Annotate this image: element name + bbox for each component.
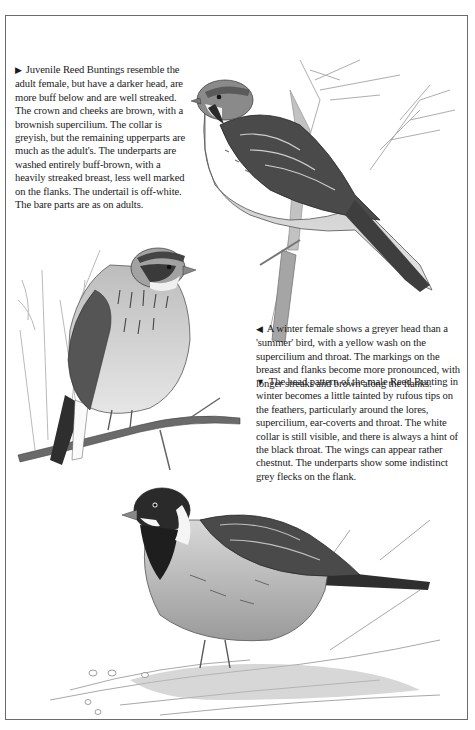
caption-winter-male: ▼The head pattern of the male Reed Bunti… — [256, 375, 468, 483]
caption-winter-male-text: The head pattern of the male Reed Buntin… — [256, 376, 458, 482]
winter-female-bunting-illustration — [18, 248, 240, 470]
juvenile-bunting-illustration — [191, 60, 455, 342]
caption-juvenile: ▶Juvenile Reed Buntings resemble the adu… — [15, 63, 187, 211]
triangle-right-icon: ▶ — [15, 65, 22, 75]
triangle-down-icon: ▼ — [256, 377, 265, 387]
triangle-left-icon: ◀ — [256, 324, 263, 334]
caption-juvenile-text: Juvenile Reed Buntings resemble the adul… — [15, 64, 185, 210]
winter-male-bunting-illustration — [50, 488, 440, 715]
